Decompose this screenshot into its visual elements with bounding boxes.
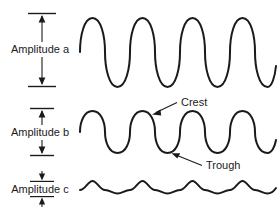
amplitude-b-label: Amplitude b [11,126,69,138]
crest-label: Crest [181,96,207,108]
amplitude-a-label: Amplitude a [11,43,70,55]
amplitude-c-label: Amplitude c [11,183,69,195]
trough-label: Trough [206,159,240,171]
wave-amplitude-diagram: Amplitude a Amplitude b Crest Amplitude … [0,0,280,218]
